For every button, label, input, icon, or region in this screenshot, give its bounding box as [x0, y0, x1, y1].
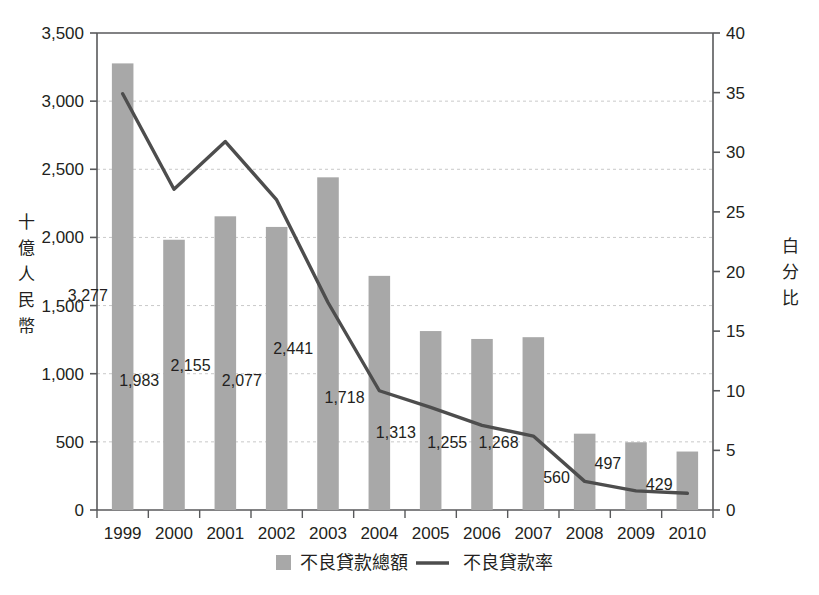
bar-data-label: 497 [595, 455, 622, 472]
bar [163, 240, 185, 510]
category-label: 2000 [155, 524, 193, 543]
left-axis-title-char: 幣 [18, 317, 35, 336]
right-axis-title-char: 白 [782, 237, 799, 256]
bar [677, 452, 699, 510]
bar-data-label: 1,255 [427, 434, 467, 451]
left-axis-tick-label: 3,500 [41, 24, 84, 43]
category-label: 2003 [309, 524, 347, 543]
left-axis-tick-label: 0 [75, 501, 84, 520]
right-axis-tick-label: 10 [726, 382, 745, 401]
left-axis-title-char: 人 [18, 265, 35, 284]
category-label: 2001 [206, 524, 244, 543]
bar [523, 337, 545, 510]
category-label: 2006 [463, 524, 501, 543]
bar-data-label: 2,077 [222, 372, 262, 389]
category-label: 2009 [617, 524, 655, 543]
bar [215, 216, 237, 510]
right-axis-tick-label: 30 [726, 143, 745, 162]
bar-data-label: 2,441 [273, 340, 313, 357]
bar [574, 434, 596, 510]
category-label: 2008 [566, 524, 604, 543]
left-axis-tick-label: 1,000 [41, 365, 84, 384]
npl-combo-chart: 05001,0001,5002,0002,5003,0003,500 05101… [0, 0, 819, 595]
left-axis-tick-label: 2,000 [41, 228, 84, 247]
legend-label-bar: 不良貸款總額 [300, 553, 408, 573]
category-label: 1999 [104, 524, 142, 543]
bar-data-label: 1,313 [376, 424, 416, 441]
bar-data-label: 2,155 [171, 357, 211, 374]
bar-data-label: 1,718 [325, 389, 365, 406]
category-label: 2007 [514, 524, 552, 543]
bar [317, 177, 339, 510]
bar-data-label: 560 [543, 469, 570, 486]
right-axis-tick-label: 5 [726, 441, 735, 460]
bar [112, 63, 134, 510]
left-axis-title-char: 民 [18, 291, 35, 310]
category-label: 2005 [412, 524, 450, 543]
left-axis-tick-label: 3,000 [41, 92, 84, 111]
left-axis-tick-label: 500 [56, 433, 84, 452]
bar [266, 227, 288, 510]
chart-container: 05001,0001,5002,0002,5003,0003,500 05101… [0, 0, 819, 595]
bar-data-label: 3,277 [68, 287, 108, 304]
right-axis-tick-label: 25 [726, 203, 745, 222]
right-axis-title-char: 分 [782, 263, 799, 282]
bar-data-label: 1,268 [479, 434, 519, 451]
category-label: 2004 [360, 524, 398, 543]
left-axis-tick-label: 2,500 [41, 160, 84, 179]
category-label: 2010 [668, 524, 706, 543]
right-axis-tick-label: 40 [726, 24, 745, 43]
legend-bar-swatch [276, 555, 291, 570]
right-axis-title-char: 比 [782, 289, 799, 308]
legend-label-line: 不良貸款率 [463, 553, 553, 573]
left-axis-title-char: 十 [18, 213, 35, 232]
right-axis-tick-label: 35 [726, 84, 745, 103]
right-axis-tick-label: 20 [726, 263, 745, 282]
left-axis-title-char: 億 [18, 239, 35, 258]
bar [625, 442, 647, 510]
right-axis-tick-label: 0 [726, 501, 735, 520]
category-label: 2002 [258, 524, 296, 543]
right-axis-tick-label: 15 [726, 322, 745, 341]
bar [420, 331, 442, 510]
bar-data-label: 1,983 [119, 372, 159, 389]
